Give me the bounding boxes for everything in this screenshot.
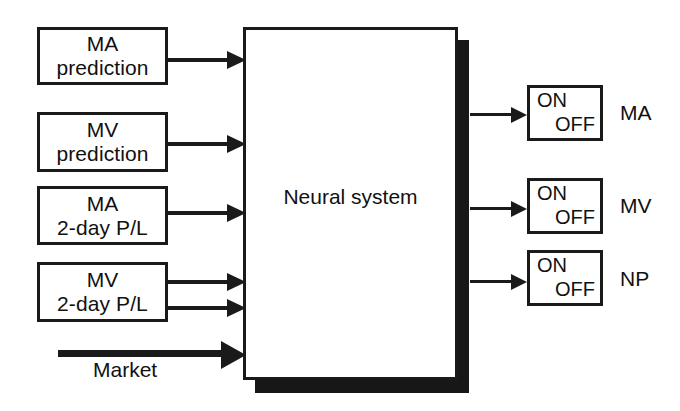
input-box-line1: MA bbox=[87, 192, 119, 216]
diagram-canvas: MA prediction MV prediction MA 2-day P/L… bbox=[0, 0, 680, 411]
arrow-shaft bbox=[470, 113, 512, 116]
switch-state-off: OFF bbox=[555, 114, 595, 134]
input-box-line2: 2-day P/L bbox=[57, 216, 148, 240]
output-label-ma: MA bbox=[620, 101, 652, 125]
input-box-line2: 2-day P/L bbox=[57, 292, 148, 316]
output-label-np: NP bbox=[620, 267, 649, 291]
switch-state-off: OFF bbox=[555, 207, 595, 227]
output-switch-mv: ON OFF bbox=[527, 178, 603, 234]
arrow-shaft bbox=[168, 211, 228, 215]
output-switch-ma: ON OFF bbox=[527, 85, 603, 141]
arrow-shaft bbox=[168, 142, 228, 146]
neural-system-label: Neural system bbox=[243, 185, 458, 209]
switch-state-on: ON bbox=[537, 255, 567, 275]
market-input-label: Market bbox=[93, 358, 157, 382]
output-switch-np: ON OFF bbox=[527, 250, 603, 306]
arrow-shaft bbox=[168, 58, 228, 62]
arrow-shaft bbox=[470, 280, 512, 283]
arrow-shaft bbox=[58, 350, 225, 357]
arrow-head bbox=[511, 201, 527, 217]
input-box-ma-2day-pl: MA 2-day P/L bbox=[37, 186, 168, 245]
output-label-mv: MV bbox=[620, 194, 652, 218]
input-box-line2: prediction bbox=[56, 56, 148, 80]
input-box-line2: prediction bbox=[56, 142, 148, 166]
input-box-line1: MV bbox=[87, 268, 119, 292]
switch-state-off: OFF bbox=[555, 279, 595, 299]
input-box-mv-2day-pl: MV 2-day P/L bbox=[37, 262, 168, 322]
input-box-line1: MV bbox=[87, 118, 119, 142]
arrow-shaft bbox=[168, 306, 228, 310]
arrow-shaft bbox=[470, 207, 512, 210]
arrow-shaft bbox=[168, 280, 228, 284]
input-box-mv-prediction: MV prediction bbox=[37, 112, 168, 172]
switch-state-on: ON bbox=[537, 183, 567, 203]
switch-state-on: ON bbox=[537, 90, 567, 110]
input-box-ma-prediction: MA prediction bbox=[37, 27, 168, 85]
arrow-head bbox=[511, 274, 527, 290]
arrow-head bbox=[511, 107, 527, 123]
input-box-line1: MA bbox=[87, 32, 119, 56]
